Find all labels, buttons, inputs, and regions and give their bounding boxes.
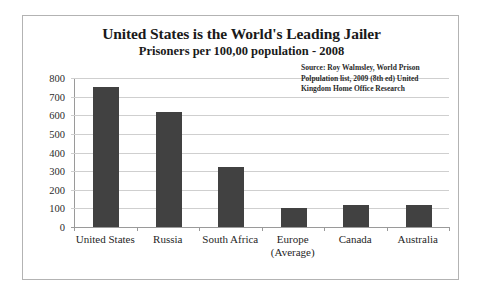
- bar: [218, 167, 244, 227]
- x-axis-category-line: Russia: [153, 233, 182, 245]
- x-axis-tick: [387, 227, 388, 231]
- x-axis-tick: [449, 227, 450, 231]
- x-axis-category-line: (Average): [271, 246, 315, 259]
- bar-slot: [200, 78, 263, 227]
- source-annotation: Source: Roy Walmsley, World PrisonPolpul…: [301, 63, 451, 95]
- x-axis-category-line: Canada: [339, 233, 372, 245]
- source-line: Polpulation list, 2009 (8th ed) United: [301, 74, 451, 85]
- bar: [281, 208, 307, 227]
- x-axis-ticks: [74, 227, 449, 232]
- bar-slot: [75, 78, 138, 227]
- x-axis-category-line: Australia: [398, 233, 438, 245]
- plot-area: [74, 78, 449, 227]
- bar-slot: [138, 78, 201, 227]
- x-axis-tick: [262, 227, 263, 231]
- y-axis-tick-label: 300: [49, 166, 65, 177]
- x-axis-category-label: United States: [76, 233, 135, 246]
- x-axis-category-label: Russia: [153, 233, 182, 246]
- chart-frame: United States is the World's Leading Jai…: [22, 15, 459, 280]
- bar: [343, 205, 369, 227]
- x-axis-category-line: South Africa: [202, 233, 258, 245]
- x-axis-category-label: Australia: [398, 233, 438, 246]
- x-axis-tick: [199, 227, 200, 231]
- x-axis-tick: [324, 227, 325, 231]
- x-axis-category-label: Canada: [339, 233, 372, 246]
- y-axis-tick-label: 0: [60, 222, 65, 233]
- y-axis-tick-label: 500: [49, 128, 65, 139]
- chart-title: United States is the World's Leading Jai…: [23, 25, 460, 43]
- y-axis-tick-label: 400: [49, 147, 65, 158]
- x-axis-category-label: South Africa: [202, 233, 258, 246]
- bar: [406, 205, 432, 227]
- y-axis-tick-label: 100: [49, 203, 65, 214]
- bar-slot: [325, 78, 388, 227]
- x-axis-tick: [74, 227, 75, 231]
- bar-slot: [388, 78, 451, 227]
- y-axis-tick-label: 200: [49, 184, 65, 195]
- source-line: Source: Roy Walmsley, World Prison: [301, 63, 451, 74]
- x-axis-labels: United StatesRussiaSouth AfricaEurope(Av…: [74, 233, 449, 267]
- y-axis-tick-label: 800: [49, 73, 65, 84]
- source-line: Kingdom Home Office Research: [301, 84, 451, 95]
- bar: [156, 112, 182, 227]
- x-axis-tick: [137, 227, 138, 231]
- bar-slot: [263, 78, 326, 227]
- chart-screenshot: United States is the World's Leading Jai…: [0, 0, 479, 299]
- y-axis-tick-label: 700: [49, 91, 65, 102]
- bar-series: [75, 78, 449, 227]
- x-axis-category-line: United States: [76, 233, 135, 245]
- x-axis-category-line: Europe: [277, 233, 309, 245]
- y-axis-tick-label: 600: [49, 110, 65, 121]
- x-axis-category-label: Europe(Average): [271, 233, 315, 259]
- y-axis-labels: 8007006005004003002001000: [41, 78, 69, 227]
- chart-subtitle: Prisoners per 100,00 population - 2008: [23, 44, 460, 59]
- bar: [93, 87, 119, 227]
- title-block: United States is the World's Leading Jai…: [23, 25, 460, 59]
- plot-wrap: 8007006005004003002001000 United StatesR…: [41, 78, 449, 268]
